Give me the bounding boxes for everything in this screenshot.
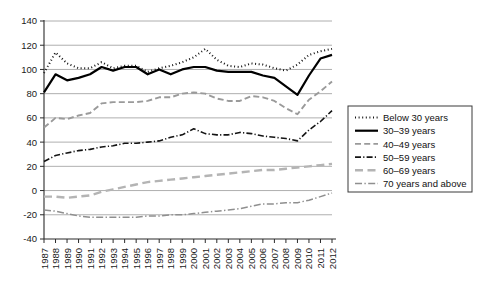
x-tick-label: 1998 bbox=[165, 248, 176, 269]
axes bbox=[44, 20, 336, 239]
x-tick-label: 2002 bbox=[211, 248, 222, 269]
x-tick-label: 2009 bbox=[292, 248, 303, 269]
legend-label-age3039: 30–39 years bbox=[383, 125, 436, 136]
x-tick-label: 1999 bbox=[177, 248, 188, 269]
legend-label-below30: Below 30 years bbox=[383, 112, 448, 123]
x-tick-label: 2010 bbox=[303, 248, 314, 269]
chart-legend: Below 30 years30–39 years40–49 years50–5… bbox=[348, 106, 472, 192]
y-tick-label: 140 bbox=[21, 15, 37, 26]
x-tick-label: 2004 bbox=[234, 248, 245, 269]
x-tick-label: 2008 bbox=[280, 248, 291, 269]
x-tick-label: 2003 bbox=[223, 248, 234, 269]
legend-label-age6069: 60–69 years bbox=[383, 165, 436, 176]
y-tick-label: 40 bbox=[26, 137, 37, 148]
x-tick-label: 1988 bbox=[50, 248, 61, 269]
y-tick-label: 100 bbox=[21, 64, 37, 75]
x-tick-label: 1989 bbox=[62, 248, 73, 269]
y-tick-label: -20 bbox=[23, 209, 37, 220]
x-tick-label: 1994 bbox=[119, 248, 130, 269]
x-tick-label: 1997 bbox=[154, 248, 165, 269]
x-tick-label: 2000 bbox=[188, 248, 199, 269]
gridlines bbox=[40, 21, 332, 239]
x-tick-label: 2006 bbox=[257, 248, 268, 269]
y-tick-label: 0 bbox=[32, 185, 37, 196]
x-tick-label: 1987 bbox=[39, 248, 50, 269]
legend-label-age70plus: 70 years and above bbox=[383, 178, 466, 189]
data-series bbox=[44, 49, 332, 217]
x-tick-label: 1992 bbox=[96, 248, 107, 269]
series-line-age6069 bbox=[44, 164, 332, 198]
line-chart: -40-20020406080100120140 198719881989199… bbox=[0, 0, 477, 298]
x-tick-label: 2011 bbox=[315, 248, 326, 268]
y-tick-label: 60 bbox=[26, 112, 37, 123]
y-axis-tick-labels: -40-20020406080100120140 bbox=[21, 15, 37, 244]
y-tick-label: 120 bbox=[21, 40, 37, 51]
y-tick-label: 80 bbox=[26, 88, 37, 99]
y-tick-label: -40 bbox=[23, 233, 37, 244]
x-axis-tick-labels: 1987198819891990199119921993199419951996… bbox=[39, 239, 338, 269]
x-tick-label: 1995 bbox=[131, 248, 142, 269]
x-tick-label: 2012 bbox=[327, 248, 338, 269]
legend-label-age4049: 40–49 years bbox=[383, 139, 436, 150]
x-tick-label: 2005 bbox=[246, 248, 257, 269]
y-tick-label: 20 bbox=[26, 161, 37, 172]
series-line-age3039 bbox=[44, 55, 332, 95]
x-tick-label: 1993 bbox=[108, 248, 119, 269]
legend-label-age5059: 50–59 years bbox=[383, 152, 436, 163]
x-tick-label: 1990 bbox=[73, 248, 84, 269]
x-tick-label: 2007 bbox=[269, 248, 280, 269]
chart-container: -40-20020406080100120140 198719881989199… bbox=[0, 0, 477, 298]
x-tick-label: 2001 bbox=[200, 248, 211, 269]
x-tick-label: 1991 bbox=[85, 248, 96, 269]
x-tick-label: 1996 bbox=[142, 248, 153, 269]
